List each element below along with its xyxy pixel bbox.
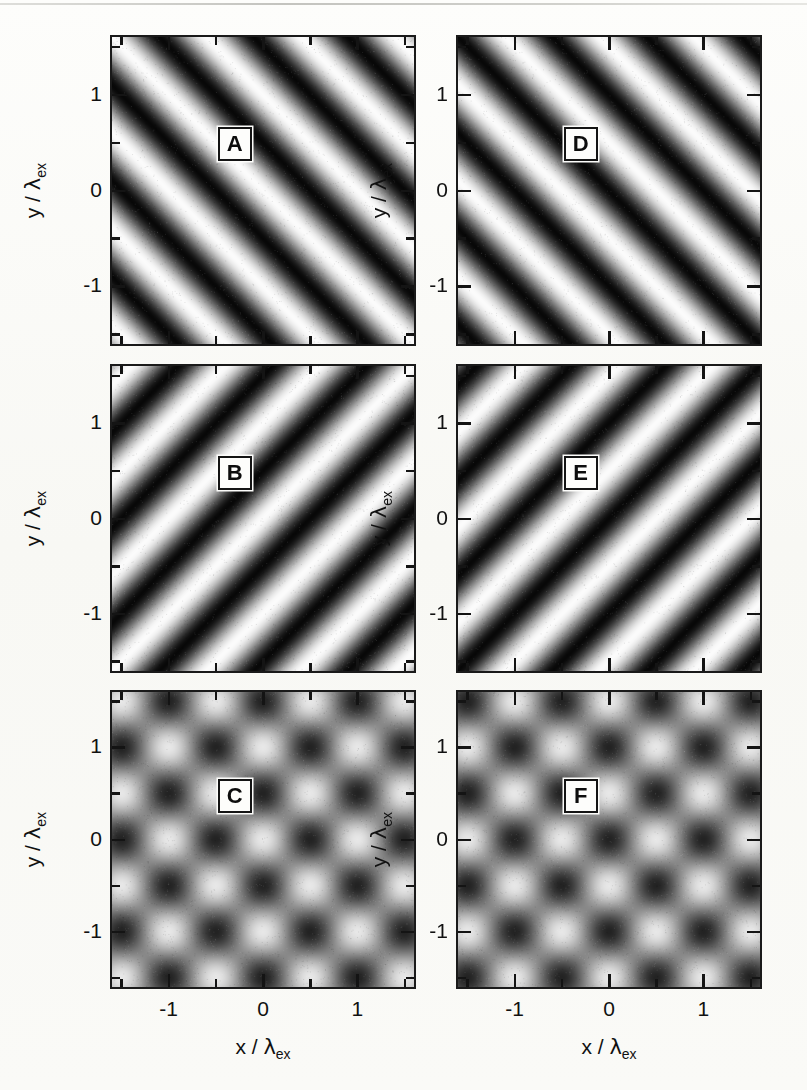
axis-tick-top: [655, 692, 658, 700]
y-tick-label: -1: [62, 601, 102, 625]
y-axis-title: y / λex: [367, 764, 394, 914]
axis-tick-bot: [356, 331, 359, 344]
y-tick-label: 0: [62, 506, 102, 530]
lambda-symbol: λ: [367, 505, 391, 517]
y-tick-label: 1: [62, 410, 102, 434]
figure-page: ABCDEF 10-1y / λex10-1y / λex10-1y / λex…: [0, 0, 807, 1090]
y-axis-title: y / λex: [367, 443, 394, 593]
axis-tick-top: [356, 366, 359, 379]
axis-tick-left: [112, 885, 120, 888]
axis-tick-right: [752, 977, 760, 980]
axis-tick-bot: [215, 336, 218, 344]
axis-tick-right: [747, 518, 760, 521]
axis-tick-right: [752, 885, 760, 888]
panel-d: D: [456, 35, 762, 346]
axis-tick-left: [112, 792, 120, 795]
axis-tick-left: [112, 613, 125, 616]
y-axis-variable: y /: [367, 190, 390, 218]
y-axis-variable: y /: [367, 518, 390, 546]
axis-tick-left: [458, 190, 471, 193]
axis-tick-bot: [215, 663, 218, 671]
axis-tick-bot: [356, 974, 359, 987]
axis-tick-right: [401, 613, 414, 616]
axis-tick-bot: [655, 336, 658, 344]
axis-tick-right: [747, 613, 760, 616]
axis-tick-right: [752, 142, 760, 145]
lambda-symbol: λ: [609, 1035, 621, 1059]
lambda-symbol: λ: [367, 826, 391, 838]
axis-tick-right: [747, 285, 760, 288]
axis-tick-left: [458, 46, 466, 49]
intensity-map-e: [458, 366, 760, 671]
axis-tick-bot: [608, 974, 611, 987]
axis-tick-left: [112, 565, 120, 568]
axis-tick-top: [655, 37, 658, 45]
axis-tick-left: [458, 885, 466, 888]
axis-tick-top: [655, 366, 658, 374]
axis-tick-top: [750, 692, 753, 700]
axis-tick-right: [406, 565, 414, 568]
axis-tick-top: [514, 37, 517, 50]
axis-tick-top: [215, 37, 218, 45]
axis-tick-right: [752, 792, 760, 795]
lambda-symbol: λ: [21, 826, 45, 838]
axis-tick-top: [262, 37, 265, 50]
axis-tick-top: [215, 366, 218, 374]
axis-tick-bot: [702, 658, 705, 671]
axis-tick-right: [406, 375, 414, 378]
axis-tick-right: [752, 375, 760, 378]
axis-tick-left: [458, 142, 466, 145]
axis-tick-bot: [514, 331, 517, 344]
panel-label-b: B: [218, 456, 252, 490]
axis-tick-right: [752, 660, 760, 663]
axis-tick-left: [112, 190, 125, 193]
axis-tick-top: [514, 692, 517, 705]
axis-tick-bot: [404, 979, 407, 987]
panel-e: E: [456, 364, 762, 673]
axis-tick-bot: [262, 658, 265, 671]
axis-tick-left: [458, 422, 471, 425]
axis-tick-bot: [404, 336, 407, 344]
axis-tick-bot: [309, 979, 312, 987]
axis-tick-top: [262, 692, 265, 705]
x-axis-subscript: ex: [276, 1046, 291, 1062]
axis-tick-right: [406, 470, 414, 473]
axis-tick-top: [309, 366, 312, 374]
axis-tick-bot: [561, 663, 564, 671]
lambda-symbol: λ: [367, 177, 391, 189]
axis-tick-bot: [655, 663, 658, 671]
axis-tick-right: [752, 700, 760, 703]
x-axis-title: x / λex: [188, 1035, 338, 1062]
axis-tick-top: [608, 37, 611, 50]
axis-tick-left: [112, 142, 120, 145]
axis-tick-left: [112, 931, 125, 934]
y-tick-label: -1: [62, 919, 102, 943]
axis-tick-left: [458, 792, 466, 795]
y-tick-label: 1: [408, 734, 448, 758]
axis-tick-right: [747, 190, 760, 193]
y-tick-label: 0: [408, 506, 448, 530]
axis-tick-left: [458, 333, 466, 336]
x-tick-label: -1: [144, 997, 194, 1021]
axis-tick-top: [750, 366, 753, 374]
axis-tick-top: [561, 692, 564, 700]
axis-tick-left: [112, 375, 120, 378]
axis-tick-right: [747, 746, 760, 749]
axis-tick-bot: [309, 336, 312, 344]
axis-tick-bot: [309, 663, 312, 671]
axis-tick-bot: [750, 336, 753, 344]
axis-tick-left: [458, 839, 471, 842]
axis-tick-top: [120, 366, 123, 374]
y-axis-title: y / λex: [21, 764, 48, 914]
axis-tick-bot: [750, 663, 753, 671]
axis-tick-right: [406, 46, 414, 49]
axis-tick-bot: [608, 658, 611, 671]
axis-tick-right: [406, 700, 414, 703]
axis-tick-bot: [514, 658, 517, 671]
axis-tick-left: [458, 237, 466, 240]
axis-tick-top: [561, 37, 564, 45]
panel-label-e: E: [564, 456, 598, 490]
axis-tick-bot: [750, 979, 753, 987]
axis-tick-right: [752, 46, 760, 49]
axis-tick-top: [466, 366, 469, 374]
